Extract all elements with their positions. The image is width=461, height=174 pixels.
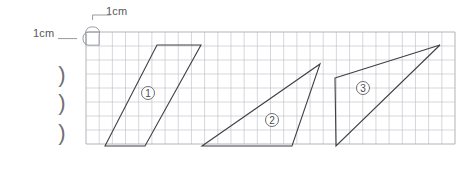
leader-line-horizontal-label bbox=[93, 15, 111, 20]
unit-cell-bracket-top bbox=[86, 27, 100, 45]
grid-figure-canvas: ))) 123 bbox=[0, 0, 461, 174]
margin-tick-mark: ) bbox=[58, 62, 65, 87]
grid-lines bbox=[86, 32, 455, 144]
shape-3-label-text: 3 bbox=[360, 83, 366, 94]
left-margin-tick-marks: ))) bbox=[58, 62, 65, 145]
margin-tick-mark: ) bbox=[58, 120, 65, 145]
margin-tick-mark: ) bbox=[58, 90, 65, 115]
measure-leader-lines bbox=[58, 15, 111, 39]
shape-1-label-text: 1 bbox=[145, 88, 151, 99]
worksheet-screenshot: 1cm 1cm ))) 123 bbox=[0, 0, 461, 174]
shape-2-outline bbox=[202, 64, 320, 146]
unit-cell-bracket bbox=[83, 27, 100, 45]
shape-2-label-text: 2 bbox=[269, 115, 275, 126]
